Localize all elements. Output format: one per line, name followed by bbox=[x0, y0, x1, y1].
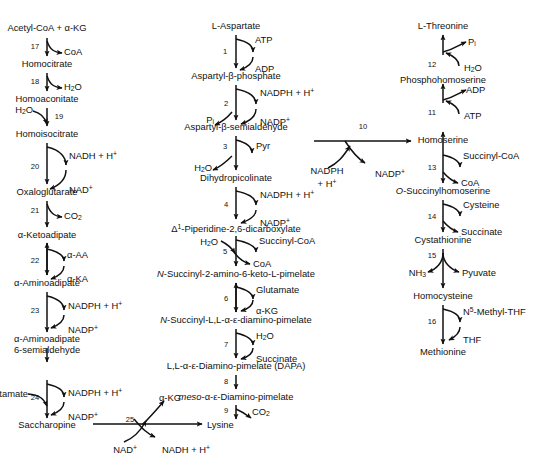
enzyme-step-9[interactable]: 9 bbox=[224, 407, 228, 415]
metabolite-aspartyl-b-semialdehyde: Aspartyl-β-semialdehyde bbox=[184, 121, 287, 132]
cofactor-pyr-3: Pyr bbox=[256, 140, 270, 151]
enzyme-step-8[interactable]: 8 bbox=[224, 378, 228, 386]
enzyme-step-17[interactable]: 17 bbox=[31, 43, 39, 51]
enzyme-step-3[interactable]: 3 bbox=[223, 143, 227, 151]
cofactor-atp-1: ATP bbox=[255, 34, 273, 45]
pathway-diagram: Acetyl-CoA + α-KG 17 CoA Homocitrate 18 … bbox=[0, 0, 539, 471]
metabolite-o-succinylhomoserine: O-Succinylhomoserine bbox=[396, 185, 490, 196]
enzyme-step-7[interactable]: 7 bbox=[224, 341, 228, 349]
enzyme-step-22[interactable]: 22 bbox=[31, 257, 39, 265]
cofactor-n5-methyl-thf-16: N5-Methyl-THF bbox=[463, 304, 526, 317]
metabolite-alpha-aminoadipate-semialdehyde: α-Aminoadipate6-semialdehyde bbox=[14, 334, 80, 355]
metabolite-l-threonine: L-Threonine bbox=[418, 20, 469, 31]
enzyme-step-10[interactable]: 10 bbox=[359, 123, 367, 131]
cofactor-nadph-h-4: NADPH + H+ bbox=[260, 187, 314, 200]
metabolite-acetyl-coa-akg: Acetyl-CoA + α-KG bbox=[7, 22, 86, 33]
enzyme-step-20[interactable]: 20 bbox=[31, 163, 39, 171]
metabolite-homoserine: Homoserine bbox=[418, 134, 469, 145]
cofactor-succinyl-coa-13: Succinyl-CoA bbox=[463, 150, 519, 161]
enzyme-step-23[interactable]: 23 bbox=[31, 307, 39, 315]
metabolite-l-aspartate: L-Aspartate bbox=[212, 20, 260, 31]
metabolite-n-succinyl-diamino-pimelate: N-Succinyl-L,L-α-ε-diamino-pimelate bbox=[160, 314, 311, 325]
enzyme-step-4[interactable]: 4 bbox=[224, 201, 228, 209]
enzyme-step-15[interactable]: 15 bbox=[428, 252, 436, 260]
cofactor-adp-11: ADP bbox=[466, 84, 485, 95]
cofactor-nad-25: NAD+ bbox=[113, 442, 137, 455]
cofactor-nadh-h-20: NADH + H+ bbox=[69, 148, 117, 161]
enzyme-step-19[interactable]: 19 bbox=[55, 113, 63, 121]
cofactor-nadph-h-23: NADPH + H+ bbox=[68, 298, 122, 311]
cofactor-thf-16: THF bbox=[463, 334, 481, 345]
cofactor-coa-17: CoA bbox=[64, 46, 82, 57]
cofactor-co2-9: CO2 bbox=[252, 406, 270, 419]
metabolite-methionine: Methionine bbox=[420, 346, 466, 357]
metabolite-cystathionine: Cystathionine bbox=[415, 234, 472, 245]
enzyme-step-16[interactable]: 16 bbox=[428, 318, 436, 326]
enzyme-step-2[interactable]: 2 bbox=[224, 100, 228, 108]
enzyme-step-18[interactable]: 18 bbox=[31, 78, 39, 86]
metabolite-alpha-aminoadipate: α-Aminoadipate bbox=[14, 277, 80, 288]
enzyme-step-11[interactable]: 11 bbox=[428, 109, 436, 117]
enzyme-step-1[interactable]: 1 bbox=[223, 48, 227, 56]
metabolite-saccharopine: Saccharopine bbox=[18, 419, 75, 430]
cofactor-nadph-h-2: NADPH + H+ bbox=[260, 85, 314, 98]
enzyme-step-24[interactable]: 24 bbox=[31, 394, 39, 402]
cofactor-glutamate-24: Glutamate bbox=[0, 388, 28, 399]
metabolite-dihydropicolinate: Dihydropicolinate bbox=[200, 172, 272, 183]
metabolite-n-succinyl-keto-pimelate: N-Succinyl-2-amino-6-keto-L-pimelate bbox=[157, 268, 315, 279]
cofactor-atp-11: ATP bbox=[464, 110, 482, 121]
metabolite-alpha-ketoadipate: α-Ketoadipate bbox=[18, 229, 77, 240]
enzyme-step-5[interactable]: 5 bbox=[223, 248, 227, 256]
enzyme-step-21[interactable]: 21 bbox=[31, 207, 39, 215]
enzyme-step-6[interactable]: 6 bbox=[224, 295, 228, 303]
metabolite-homocysteine: Homocysteine bbox=[413, 290, 472, 301]
cofactor-co2-21: CO2 bbox=[64, 210, 82, 223]
cofactor-glutamate-6: Glutamate bbox=[256, 284, 299, 295]
cofactor-nadph-h-24: NADPH + H+ bbox=[68, 385, 122, 398]
metabolite-aspartyl-b-phosphate: Aspartyl-β-phosphate bbox=[191, 70, 280, 81]
cofactor-nadp-10: NADP+ bbox=[375, 166, 405, 179]
enzyme-step-25[interactable]: 25 bbox=[126, 416, 134, 424]
cofactor-pyruvate-15: Pyuvate bbox=[462, 267, 496, 278]
metabolite-ll-diamino-pimelate: L,L-α-ε-Diamino-pimelate (DAPA) bbox=[167, 360, 306, 371]
enzyme-step-13[interactable]: 13 bbox=[428, 164, 436, 172]
cofactor-cysteine-14: Cysteine bbox=[463, 199, 499, 210]
metabolite-oxaloglutarate: Oxaloglutarate bbox=[17, 186, 78, 197]
cofactor-pi-12: Pi bbox=[468, 36, 476, 49]
cofactor-nh3-15: NH3 bbox=[409, 267, 426, 280]
metabolite-homoaconitate: Homoaconitate bbox=[15, 93, 78, 104]
cofactor-h2o-7: H2O bbox=[256, 330, 274, 343]
enzyme-step-12[interactable]: 12 bbox=[428, 61, 436, 69]
metabolite-piperidine-dicarboxylate: Δ1-Piperidine-2,6-dicarboxylate bbox=[171, 221, 300, 234]
metabolite-homocitrate: Homocitrate bbox=[22, 58, 73, 69]
cofactor-alpha-aa-22: α-AA bbox=[67, 249, 88, 260]
cofactor-nadh-h-25: NADH + H+ bbox=[162, 442, 210, 455]
enzyme-step-14[interactable]: 14 bbox=[428, 213, 436, 221]
cofactor-succinyl-coa-5: Succinyl-CoA bbox=[259, 235, 315, 246]
cofactor-h2o-19: H2O bbox=[15, 104, 33, 117]
metabolite-homoisocitrate: Homoisocitrate bbox=[16, 128, 79, 139]
metabolite-lysine: Lysine bbox=[207, 419, 234, 430]
cofactor-h2o-5: H2O bbox=[200, 236, 218, 249]
cofactor-nadph-h-10: NADPH+ H+ bbox=[311, 166, 344, 189]
metabolite-meso-diamino-pimelate: meso-α-ε-Diamino-pimelate bbox=[179, 391, 294, 402]
